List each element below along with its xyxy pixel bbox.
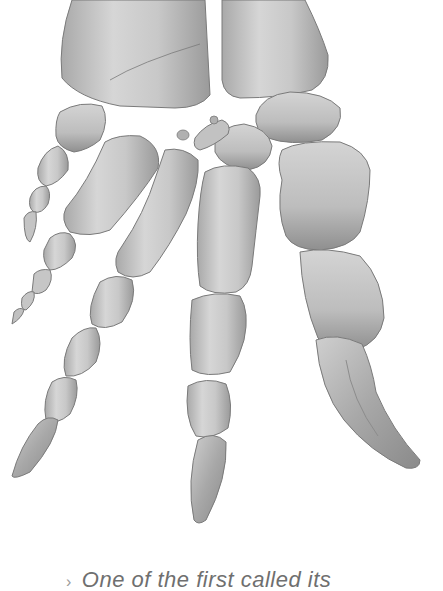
caption-text: One of the first called its (82, 567, 332, 591)
figure-caption: ›One of the first called its (66, 567, 426, 591)
digit-5 (279, 142, 420, 469)
ulna-bone (222, 0, 328, 98)
digit-4 (187, 166, 260, 523)
radius-bone (61, 0, 210, 108)
caption-marker: › (66, 573, 72, 590)
